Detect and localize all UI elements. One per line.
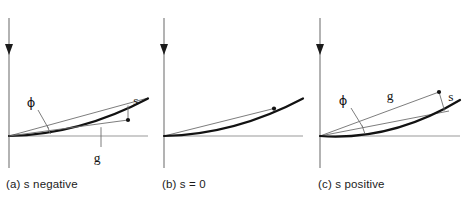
down-arrow-icon [5,44,13,55]
s-label: s [133,93,138,108]
panel-b-s-zero [155,0,310,178]
phi-label: ϕ [27,95,36,110]
g-label: g [94,150,101,165]
endpoint-dot [437,90,441,94]
s-offset-segment [439,92,445,111]
phi-angle-tick [362,126,365,135]
down-arrow-icon [160,44,168,55]
g-label: g [387,88,394,103]
phi-leader-line [38,110,49,129]
panel-c-s-positive: ϕ g s [310,0,471,178]
phi-leader-line [351,108,363,128]
phi-label: ϕ [339,93,348,108]
endpoint-dot [126,118,130,122]
figure-container: ϕ g s ϕ g s (a) s negative (b) s [0,0,471,203]
g-ray-line [9,120,128,136]
caption-panel-a: (a) s negative [6,178,78,190]
caption-panel-b: (b) s = 0 [162,178,206,190]
chord-line [164,109,274,137]
down-arrow-icon [316,44,324,55]
s-label: s [448,89,453,104]
endpoint-dot [272,107,276,111]
panel-a-s-negative: ϕ g s [0,0,155,178]
caption-panel-c: (c) s positive [318,178,385,190]
caption-row: (a) s negative (b) s = 0 (c) s positive [0,178,471,200]
